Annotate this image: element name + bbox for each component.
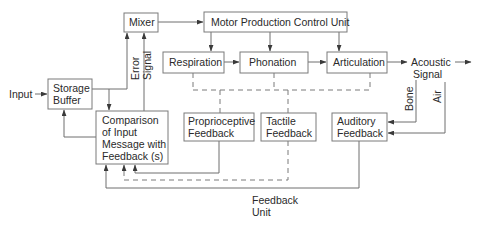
node-motor-unit: Motor Production Control Unit xyxy=(204,12,349,32)
acoustic-signal-line-2: Signal xyxy=(413,68,442,80)
node-phonation: Phonation xyxy=(240,52,308,73)
tactile-line-2: Feedback xyxy=(266,127,313,139)
comparison-line-1: Comparison xyxy=(102,114,159,126)
node-tactile: Tactile Feedback xyxy=(261,113,316,141)
motor-unit-label: Motor Production Control Unit xyxy=(211,16,349,28)
node-auditory: Auditory Feedback xyxy=(332,113,387,141)
mixer-label: Mixer xyxy=(129,16,155,28)
error-signal-line-1: Error xyxy=(129,56,141,80)
articulation-label: Articulation xyxy=(333,56,385,68)
storage-buffer-line-1: Storage xyxy=(53,82,90,94)
node-comparison: Comparison of Input Message with Feedbac… xyxy=(96,111,168,164)
comparison-line-3: Message with xyxy=(102,138,166,150)
node-storage-buffer: Storage Buffer xyxy=(48,79,92,109)
edge-buffer-to-mixer xyxy=(92,33,127,89)
feedback-unit-line-1: Feedback xyxy=(252,194,299,206)
node-proprioceptive: Proprioceptive Feedback xyxy=(184,113,255,141)
comparison-line-4: Feedback (s) xyxy=(102,150,163,162)
acoustic-signal-line-1: Acoustic xyxy=(411,56,451,68)
tactile-line-1: Tactile xyxy=(266,115,296,127)
bone-label: Bone xyxy=(403,86,415,111)
air-label: Air xyxy=(431,90,443,103)
node-respiration: Respiration xyxy=(163,52,224,73)
auditory-line-1: Auditory xyxy=(337,115,376,127)
comparison-line-2: of Input xyxy=(102,126,137,138)
input-label: Input xyxy=(9,88,32,100)
node-mixer: Mixer xyxy=(124,13,158,32)
node-articulation: Articulation xyxy=(327,52,387,73)
feedback-unit-line-2: Unit xyxy=(252,206,271,218)
speech-production-diagram: Storage Buffer Mixer Motor Production Co… xyxy=(0,0,477,225)
respiration-label: Respiration xyxy=(169,56,222,68)
error-signal-line-2: Signal xyxy=(141,51,153,80)
phonation-label: Phonation xyxy=(249,56,296,68)
auditory-line-2: Feedback xyxy=(337,127,384,139)
edge-comparison-to-buffer xyxy=(64,110,96,137)
proprioceptive-line-2: Feedback xyxy=(188,127,235,139)
proprioceptive-line-1: Proprioceptive xyxy=(188,115,255,127)
storage-buffer-line-2: Buffer xyxy=(53,94,81,106)
